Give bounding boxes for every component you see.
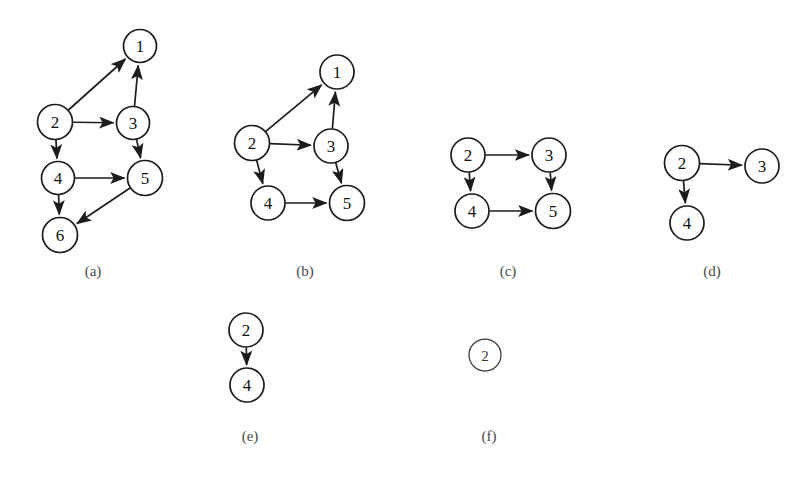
- node-label-3: 3: [545, 146, 554, 165]
- edge-3-to-5: [137, 140, 141, 158]
- figure-container: 123456(a)12345(b)2345(c)234(d)24(e)2(f): [0, 0, 812, 481]
- panels-layer: 123456(a)12345(b)2345(c)234(d)24(e)2(f): [38, 30, 780, 446]
- edge-2-to-3: [700, 164, 742, 166]
- graph-panel-c: 2345(c): [451, 138, 571, 280]
- node-1: 1: [320, 55, 354, 89]
- panel-label-c: (c): [500, 263, 517, 280]
- panel-label-e: (e): [242, 428, 259, 445]
- node-label-4: 4: [54, 169, 63, 188]
- edge-2-to-4: [469, 172, 470, 191]
- edges-group: [56, 59, 141, 224]
- edge-2-to-4: [56, 140, 57, 159]
- edge-2-to-4: [257, 160, 263, 183]
- node-label-2: 2: [242, 321, 251, 340]
- node-label-3: 3: [327, 137, 336, 156]
- node-label-5: 5: [141, 169, 150, 188]
- node-4: 4: [42, 162, 75, 195]
- node-label-3: 3: [758, 157, 767, 176]
- graph-panel-a: 123456(a): [38, 30, 163, 281]
- node-3: 3: [532, 138, 566, 172]
- node-label-2: 2: [248, 134, 257, 153]
- panel-label-d: (d): [703, 263, 721, 280]
- edge-2-to-3: [270, 144, 311, 146]
- node-label-2: 2: [481, 348, 489, 364]
- node-label-1: 1: [333, 63, 342, 82]
- node-2: 2: [665, 146, 700, 181]
- node-3: 3: [117, 107, 150, 140]
- edge-3-to-5: [550, 172, 551, 190]
- node-2: 2: [229, 313, 263, 347]
- node-label-4: 4: [683, 214, 692, 233]
- node-2: 2: [235, 126, 270, 161]
- edge-2-to-4: [683, 181, 685, 203]
- edge-4-to-6: [59, 195, 60, 215]
- node-label-1: 1: [136, 37, 145, 56]
- edge-3-to-1: [332, 92, 335, 129]
- node-5: 5: [330, 186, 365, 221]
- node-3: 3: [745, 149, 779, 183]
- edge-3-to-1: [135, 65, 139, 106]
- node-3: 3: [314, 129, 348, 163]
- node-2: 2: [451, 138, 485, 172]
- node-2: 2: [38, 105, 73, 140]
- edge-5-to-6: [77, 188, 130, 224]
- node-label-3: 3: [129, 114, 138, 133]
- node-label-5: 5: [549, 202, 558, 221]
- node-label-2: 2: [51, 113, 60, 132]
- graph-panel-e: 24(e): [229, 313, 264, 445]
- edge-2-to-3: [73, 122, 114, 123]
- node-label-4: 4: [243, 376, 252, 395]
- edge-2-to-1: [266, 85, 322, 132]
- node-5: 5: [128, 161, 163, 196]
- edge-2-to-1: [68, 59, 125, 110]
- node-4: 4: [455, 194, 489, 228]
- graph-figure: 123456(a)12345(b)2345(c)234(d)24(e)2(f): [0, 0, 812, 481]
- graph-panel-f: 2(f): [469, 339, 501, 445]
- panel-label-f: (f): [482, 428, 497, 445]
- node-4: 4: [670, 206, 704, 240]
- node-4: 4: [230, 368, 264, 402]
- node-1: 1: [124, 30, 157, 63]
- panel-label-b: (b): [296, 263, 314, 280]
- node-5: 5: [536, 194, 571, 229]
- panel-label-a: (a): [85, 263, 102, 280]
- graph-panel-d: 234(d): [665, 146, 780, 281]
- node-label-2: 2: [464, 146, 473, 165]
- node-label-4: 4: [468, 202, 477, 221]
- node-2: 2: [469, 339, 501, 371]
- node-label-6: 6: [56, 226, 65, 245]
- node-label-4: 4: [264, 194, 273, 213]
- edge-3-to-5: [336, 163, 342, 183]
- graph-panel-b: 12345(b): [235, 55, 365, 280]
- node-6: 6: [43, 218, 78, 253]
- node-4: 4: [251, 186, 285, 220]
- node-label-2: 2: [678, 154, 687, 173]
- node-label-5: 5: [343, 194, 352, 213]
